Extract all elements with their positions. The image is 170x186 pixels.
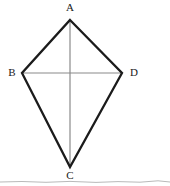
vertex-label-b: B	[4, 67, 20, 78]
vertex-label-a: A	[0, 2, 140, 13]
vertex-label-d: D	[126, 67, 142, 78]
geometry-figure-canvas: A B C D	[0, 0, 170, 186]
vertex-label-c: C	[0, 170, 140, 181]
kite-diagram-svg	[0, 0, 170, 186]
figure-background	[0, 0, 170, 186]
